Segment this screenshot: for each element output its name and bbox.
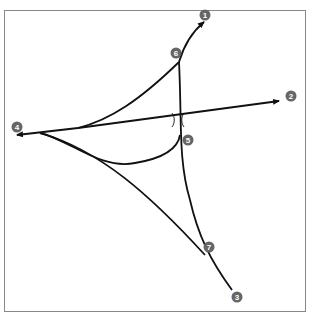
marker-4: 4	[12, 122, 23, 133]
marker-3: 3	[232, 292, 243, 303]
svg-text:3: 3	[235, 293, 240, 302]
ramp-4-7	[40, 133, 205, 255]
marker-2: 2	[286, 91, 297, 102]
svg-text:5: 5	[186, 136, 191, 145]
svg-text:6: 6	[174, 49, 179, 58]
marker-7: 7	[204, 242, 215, 253]
svg-text:1: 1	[203, 11, 208, 20]
ramp-4-6	[78, 62, 179, 128]
ramp-4-5	[40, 133, 180, 164]
svg-text:4: 4	[15, 123, 20, 132]
marker-5: 5	[183, 135, 194, 146]
svg-text:2: 2	[289, 92, 294, 101]
interchange-diagram: 1 2 3 4 5 6 7	[0, 0, 316, 324]
road-1-to-3	[179, 62, 232, 290]
marker-1: 1	[200, 10, 211, 21]
road-to-1	[179, 22, 204, 62]
road-to-4	[17, 128, 78, 135]
svg-text:7: 7	[207, 243, 212, 252]
road-4-to-2	[78, 101, 279, 128]
diagram-frame	[5, 11, 306, 312]
marker-6: 6	[171, 48, 182, 59]
